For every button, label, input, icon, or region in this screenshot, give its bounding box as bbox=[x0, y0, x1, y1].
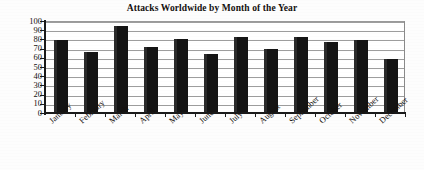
bar-highlight bbox=[234, 37, 237, 112]
y-tick-mark bbox=[40, 67, 45, 68]
y-tick-label: 50 bbox=[2, 63, 42, 71]
y-tick-label: 60 bbox=[2, 53, 42, 61]
y-tick-label: 80 bbox=[2, 35, 42, 43]
y-tick-label: 20 bbox=[2, 90, 42, 98]
bar bbox=[144, 47, 158, 112]
y-tick-mark bbox=[40, 49, 45, 50]
chart-title: Attacks Worldwide by Month of the Year bbox=[0, 3, 424, 13]
gridline bbox=[46, 40, 404, 41]
gridline bbox=[46, 31, 404, 32]
y-tick-mark bbox=[40, 104, 45, 105]
y-tick-label: 40 bbox=[2, 72, 42, 80]
y-tick-mark bbox=[40, 39, 45, 40]
bar-highlight bbox=[204, 54, 207, 112]
x-axis-line bbox=[44, 112, 406, 114]
y-tick-mark bbox=[40, 113, 45, 114]
gridline bbox=[46, 68, 404, 69]
y-axis-labels: 1009080706050403020100 bbox=[0, 0, 42, 170]
y-tick-mark bbox=[40, 76, 45, 77]
y-tick-mark bbox=[40, 85, 45, 86]
gridline bbox=[46, 105, 404, 106]
gridline bbox=[46, 22, 404, 23]
gridline bbox=[46, 50, 404, 51]
plot-area bbox=[45, 21, 405, 113]
bar-highlight bbox=[324, 42, 327, 112]
bar bbox=[264, 49, 278, 112]
bar bbox=[324, 42, 338, 112]
bar-highlight bbox=[264, 49, 267, 112]
bar bbox=[54, 40, 68, 112]
y-tick-mark bbox=[40, 58, 45, 59]
y-tick-label: 0 bbox=[2, 109, 42, 117]
y-tick-label: 70 bbox=[2, 44, 42, 52]
bar bbox=[294, 37, 308, 112]
y-tick-mark bbox=[40, 95, 45, 96]
y-tick-mark bbox=[40, 30, 45, 31]
gridline bbox=[46, 86, 404, 87]
bar-highlight bbox=[384, 59, 387, 112]
gridline bbox=[46, 59, 404, 60]
bar-highlight bbox=[174, 39, 177, 112]
y-tick-label: 100 bbox=[2, 17, 42, 25]
bar bbox=[384, 59, 398, 112]
bar bbox=[174, 39, 188, 112]
gridline bbox=[46, 96, 404, 97]
y-tick-label: 90 bbox=[2, 26, 42, 34]
bar-highlight bbox=[54, 40, 57, 112]
y-tick-label: 30 bbox=[2, 81, 42, 89]
y-tick-mark bbox=[40, 21, 45, 22]
bar-highlight bbox=[84, 52, 87, 112]
bar bbox=[84, 52, 98, 112]
bar bbox=[204, 54, 218, 112]
bar-highlight bbox=[354, 40, 357, 112]
gridline bbox=[46, 77, 404, 78]
bar-chart: Attacks Worldwide by Month of the Year 1… bbox=[0, 0, 424, 170]
bar-highlight bbox=[114, 26, 117, 112]
bar bbox=[234, 37, 248, 112]
bar-highlight bbox=[294, 37, 297, 112]
bar bbox=[354, 40, 368, 112]
bar bbox=[114, 26, 128, 112]
y-tick-label: 10 bbox=[2, 99, 42, 107]
bar-highlight bbox=[144, 47, 147, 112]
